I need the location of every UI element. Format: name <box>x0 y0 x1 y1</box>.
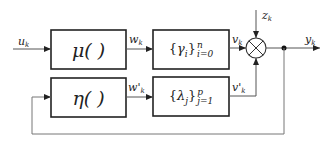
block-gamma-label: {γi} n i=0 <box>153 30 229 69</box>
block-mu-label: μ( ) <box>51 30 126 69</box>
diagram-canvas <box>0 0 335 144</box>
signal-w-prime-label: w'k <box>128 82 145 95</box>
signal-v-label: vk <box>232 34 242 47</box>
signal-v-prime-label: v'k <box>232 82 246 95</box>
signal-y-label: yk <box>305 34 315 47</box>
multiplier-icon <box>246 38 266 58</box>
block-lambda-label: {λj} p j=1 <box>153 77 229 116</box>
signal-u-label: uk <box>18 36 29 49</box>
signal-w-label: wk <box>129 34 143 47</box>
signal-z-label: zk <box>262 10 272 23</box>
block-eta-label: η( ) <box>51 78 126 117</box>
